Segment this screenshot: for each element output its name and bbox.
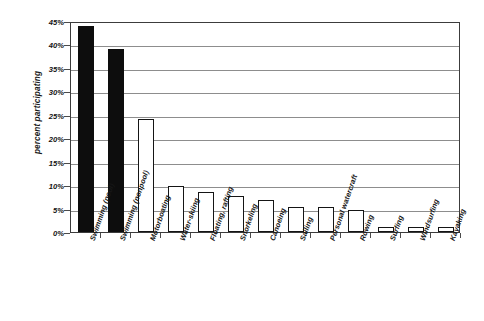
x-tick-mark [370,233,371,238]
x-tick-mark [340,233,341,238]
x-tick-mark [250,233,251,238]
x-tick-mark [310,233,311,238]
bar [168,186,184,232]
y-tick-label: 20% [36,135,64,144]
x-tick-mark [220,233,221,238]
y-tick-mark [64,233,70,234]
x-axis-tick-labels: Swimming (pool)Swimming (nonpool)Motorbo… [70,239,460,321]
y-tick-mark [64,69,70,70]
x-tick-mark [400,233,401,238]
y-axis-tick-labels: 0%5%10%15%20%25%30%35%40%45% [34,0,64,321]
y-tick-mark [64,116,70,117]
x-tick-mark [430,233,431,238]
bars-group [71,23,459,232]
y-tick-label: 40% [36,41,64,50]
y-tick-label: 15% [36,158,64,167]
y-tick-mark [64,22,70,23]
x-tick-mark [160,233,161,238]
y-tick-label: 45% [36,18,64,27]
y-tick-mark [64,45,70,46]
x-tick-mark [280,233,281,238]
y-tick-mark [64,186,70,187]
y-tick-label: 5% [36,205,64,214]
y-tick-label: 25% [36,111,64,120]
y-tick-mark [64,92,70,93]
x-tick-mark [190,233,191,238]
y-tick-label: 10% [36,182,64,191]
x-tick-mark [460,233,461,238]
y-tick-mark [64,163,70,164]
x-tick-mark [130,233,131,238]
y-tick-label: 35% [36,64,64,73]
bar [78,26,94,232]
bar [108,49,124,232]
y-tick-mark [64,210,70,211]
plot-area [70,22,460,233]
x-tick-mark [100,233,101,238]
bar-chart: percent participating 0%5%10%15%20%25%30… [0,0,484,321]
y-tick-mark [64,139,70,140]
y-tick-label: 0% [36,229,64,238]
y-tick-label: 30% [36,88,64,97]
